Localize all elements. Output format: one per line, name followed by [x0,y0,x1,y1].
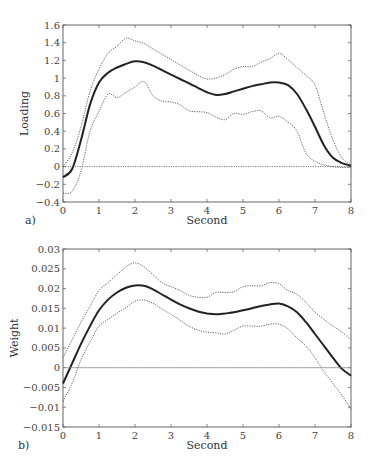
x-tick-label: 0 [60,430,66,441]
x-axis-label: Second [187,214,228,227]
y-tick-label: 0.2 [44,143,60,154]
y-axis-label: Weight [8,318,21,358]
chart-b-weight: 012345678−0.015−0.01−0.00500.0050.010.01… [8,244,354,453]
y-tick-label: 0.6 [44,108,60,119]
y-tick-label: 1.6 [44,20,60,31]
x-tick-label: 5 [240,430,246,441]
y-tick-label: −0.4 [36,197,60,208]
y-tick-label: 0 [54,362,60,373]
y-tick-label: −0.005 [23,382,60,393]
y-tick-label: −0.015 [23,422,60,433]
x-tick-label: 6 [276,205,282,216]
upper-bound-line [63,263,351,358]
chart-a-loading: 012345678−0.4−0.200.20.40.60.811.21.41.6… [18,20,354,228]
y-tick-label: 1.4 [44,37,60,48]
x-tick-label: 6 [276,430,282,441]
x-tick-label: 5 [240,205,246,216]
x-tick-label: 2 [132,205,138,216]
x-tick-label: 3 [168,430,174,441]
x-tick-label: 8 [348,205,354,216]
upper-bound-line [63,38,351,166]
y-tick-label: 0.01 [38,323,60,334]
lower-bound-line [63,300,351,409]
y-tick-label: 0.4 [44,126,60,137]
panel-label: a) [25,214,36,227]
x-tick-label: 8 [348,430,354,441]
y-tick-label: 0 [54,161,60,172]
y-tick-label: 0.02 [38,283,60,294]
y-axis-label: Loading [18,91,31,136]
y-tick-label: 0.005 [31,342,60,353]
x-tick-label: 2 [132,430,138,441]
y-tick-label: 0.015 [31,303,60,314]
y-tick-label: 1 [54,73,60,84]
lower-bound-line [63,81,351,193]
x-axis-label: Second [187,439,228,452]
y-tick-label: 0.03 [38,244,60,255]
y-tick-label: 0.025 [31,263,60,274]
y-tick-label: −0.2 [36,179,60,190]
mean-line [63,285,351,383]
x-tick-label: 0 [60,205,66,216]
panel-label: b) [18,439,29,452]
x-tick-label: 1 [96,205,102,216]
x-tick-label: 3 [168,205,174,216]
x-tick-label: 7 [312,430,318,441]
x-tick-label: 1 [96,430,102,441]
figure: 012345678−0.4−0.200.20.40.60.811.21.41.6… [0,0,373,472]
x-tick-label: 7 [312,205,318,216]
y-tick-label: 1.2 [44,55,60,66]
y-tick-label: 0.8 [44,90,60,101]
y-tick-label: −0.01 [29,402,60,413]
plot-frame [63,249,351,427]
